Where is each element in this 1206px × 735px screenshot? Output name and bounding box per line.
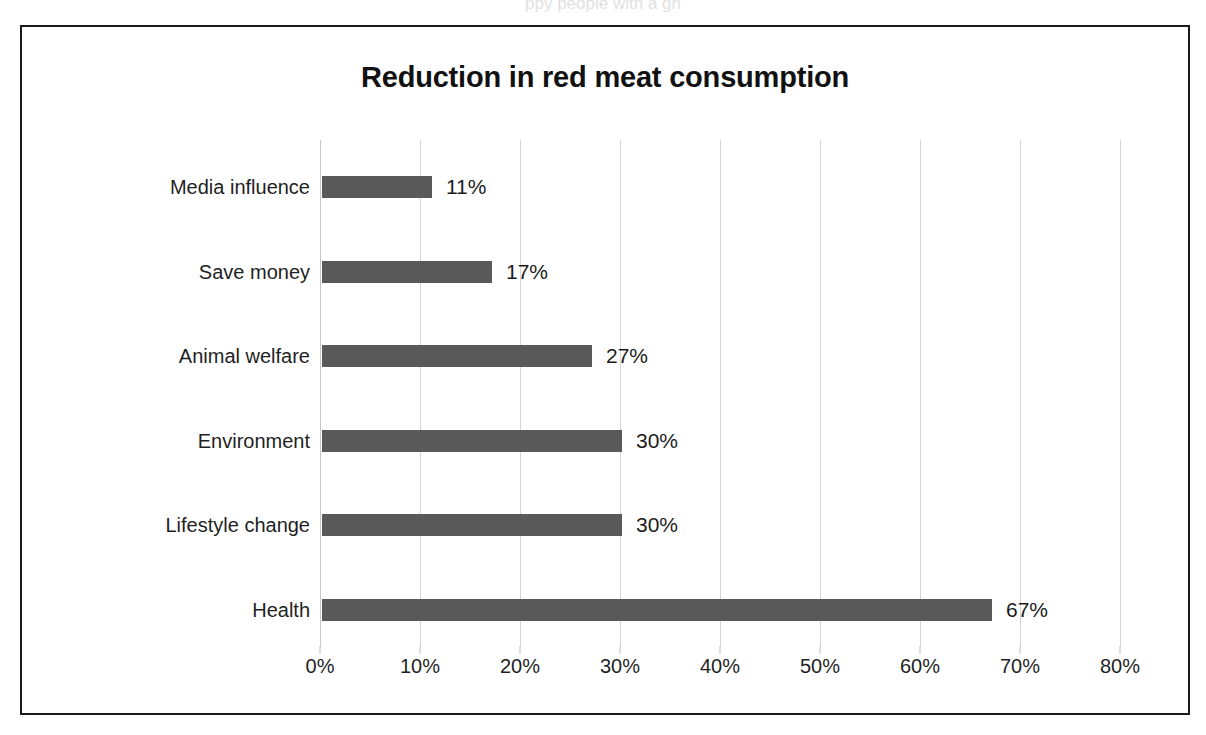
bar-value-label: 30%: [636, 429, 678, 453]
bar[interactable]: [322, 345, 592, 367]
bar[interactable]: [322, 430, 622, 452]
gridline: [820, 140, 821, 647]
x-axis-tick-mark: [620, 646, 621, 654]
x-axis-tick-label: 20%: [500, 655, 540, 678]
x-axis-tick-mark: [920, 646, 921, 654]
gridline: [720, 140, 721, 647]
gridline: [1120, 140, 1121, 647]
bar-row[interactable]: 11%: [322, 176, 1124, 198]
x-axis-tick-mark: [720, 646, 721, 654]
bar-value-label: 30%: [636, 513, 678, 537]
bar[interactable]: [322, 514, 622, 536]
x-axis-tick-mark: [420, 646, 421, 654]
y-axis-category-label: Lifestyle change: [50, 514, 310, 537]
x-axis-tick-label: 30%: [600, 655, 640, 678]
bar-value-label: 27%: [606, 344, 648, 368]
bar-row[interactable]: 27%: [322, 345, 1124, 367]
x-axis-tick-mark: [520, 646, 521, 654]
gridline: [1020, 140, 1021, 647]
bar[interactable]: [322, 176, 432, 198]
chart-frame: Reduction in red meat consumption Health…: [20, 25, 1190, 715]
x-axis-tick-label: 10%: [400, 655, 440, 678]
chart-title: Reduction in red meat consumption: [22, 61, 1188, 94]
y-axis-category-labels: HealthLifestyle changeEnvironmentAnimal …: [42, 140, 310, 647]
bar[interactable]: [322, 261, 492, 283]
gridline: [520, 140, 521, 647]
bar-value-label: 17%: [506, 260, 548, 284]
gridline: [420, 140, 421, 647]
x-axis-tick-label: 80%: [1100, 655, 1140, 678]
clipped-text-above-figure: ppy people with a gh: [0, 0, 1206, 14]
x-axis-tick-label: 70%: [1000, 655, 1040, 678]
value-axis-line: [320, 140, 321, 647]
x-axis-tick-mark: [820, 646, 821, 654]
y-axis-category-label: Environment: [50, 429, 310, 452]
gridline: [620, 140, 621, 647]
y-axis-category-label: Health: [50, 598, 310, 621]
bar-row[interactable]: 30%: [322, 430, 1124, 452]
bar-value-label: 11%: [446, 175, 486, 199]
plot-area: 67%30%30%27%17%11%: [320, 140, 1122, 647]
bar[interactable]: [322, 599, 992, 621]
x-axis-tick-label: 0%: [306, 655, 335, 678]
y-axis-category-label: Media influence: [50, 176, 310, 199]
bar-row[interactable]: 30%: [322, 514, 1124, 536]
gridline: [920, 140, 921, 647]
x-axis-tick-labels: 0%10%20%30%40%50%60%70%80%: [320, 655, 1122, 689]
x-axis-tick-label: 50%: [800, 655, 840, 678]
x-axis-tick-mark: [1120, 646, 1121, 654]
x-axis-tick-mark: [320, 646, 321, 654]
x-axis-tick-mark: [1020, 646, 1021, 654]
y-axis-category-label: Animal welfare: [50, 345, 310, 368]
bar-value-label: 67%: [1006, 598, 1048, 622]
x-axis-tick-label: 60%: [900, 655, 940, 678]
y-axis-category-label: Save money: [50, 260, 310, 283]
bar-row[interactable]: 17%: [322, 261, 1124, 283]
x-axis-tick-label: 40%: [700, 655, 740, 678]
bar-row[interactable]: 67%: [322, 599, 1124, 621]
